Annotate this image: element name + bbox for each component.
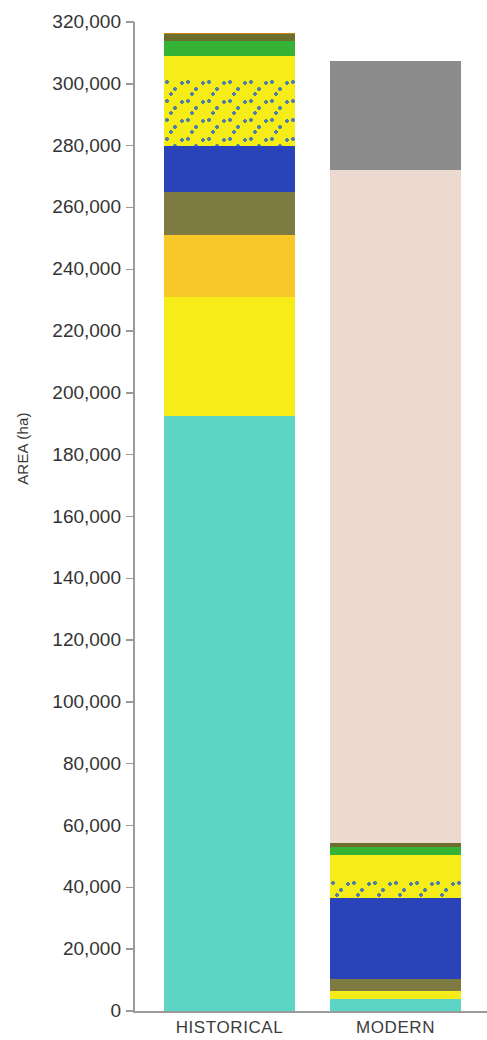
- bar-segment-blue[interactable]: [164, 146, 295, 192]
- y-tick-label: 120,000: [0, 630, 121, 649]
- x-label-historical: HISTORICAL: [164, 1018, 295, 1038]
- bar-segment-green[interactable]: [330, 847, 461, 855]
- bar-segment-stippled-yellow[interactable]: [330, 880, 461, 899]
- y-tick-mark: [126, 269, 134, 270]
- bar-segment-teal-base[interactable]: [330, 999, 461, 1011]
- y-tick-mark: [126, 207, 134, 208]
- y-tick-label: 80,000: [0, 754, 121, 773]
- bar-segment-gold-amber[interactable]: [164, 235, 295, 297]
- y-tick-label: 40,000: [0, 877, 121, 896]
- y-tick-mark: [126, 701, 134, 702]
- bar-segment-bright-yellow[interactable]: [330, 991, 461, 999]
- bar-segment-dark-olive[interactable]: [330, 843, 461, 848]
- bar-segment-blue[interactable]: [330, 898, 461, 978]
- y-tick-label: 320,000: [0, 12, 121, 31]
- bar-segment-dark-olive[interactable]: [164, 34, 295, 40]
- y-tick-mark: [126, 887, 134, 888]
- y-tick-mark: [126, 83, 134, 84]
- bar-segment-orange-tan[interactable]: [164, 33, 295, 35]
- y-tick-label: 100,000: [0, 692, 121, 711]
- y-tick-label: 240,000: [0, 259, 121, 278]
- bar-segment-olive-khaki[interactable]: [164, 192, 295, 235]
- bar-segment-yellow-upper[interactable]: [164, 56, 295, 79]
- y-tick-label: 260,000: [0, 197, 121, 216]
- y-tick-mark: [126, 1010, 134, 1011]
- y-tick-mark: [126, 454, 134, 455]
- y-tick-label: 60,000: [0, 816, 121, 835]
- bar-segment-beige[interactable]: [330, 170, 461, 842]
- y-tick-label: 300,000: [0, 74, 121, 93]
- bar-segment-stippled-yellow[interactable]: [164, 79, 295, 145]
- y-tick-mark: [126, 639, 134, 640]
- stacked-bar-chart: AREA (ha) 320,000300,000280,000260,00024…: [0, 0, 487, 1040]
- y-tick-mark: [126, 516, 134, 517]
- y-tick-mark: [126, 763, 134, 764]
- y-tick-mark: [126, 948, 134, 949]
- bar-modern[interactable]: [330, 61, 461, 1011]
- y-tick-label: 20,000: [0, 939, 121, 958]
- bar-segment-green[interactable]: [164, 41, 295, 56]
- y-tick-label: 160,000: [0, 507, 121, 526]
- y-tick-mark: [126, 392, 134, 393]
- y-tick-mark: [126, 825, 134, 826]
- y-tick-label: 0: [0, 1001, 121, 1020]
- bar-historical[interactable]: [164, 33, 295, 1011]
- bar-segment-yellow-upper[interactable]: [330, 855, 461, 880]
- x-axis-line: [133, 1011, 487, 1013]
- y-tick-mark: [126, 21, 134, 22]
- bar-segment-bright-yellow[interactable]: [164, 297, 295, 416]
- y-tick-label: 280,000: [0, 136, 121, 155]
- y-tick-label: 140,000: [0, 568, 121, 587]
- x-label-modern: MODERN: [330, 1018, 461, 1038]
- y-tick-mark: [126, 145, 134, 146]
- bar-segment-teal-base[interactable]: [164, 416, 295, 1011]
- y-tick-label: 180,000: [0, 445, 121, 464]
- bar-segment-grey[interactable]: [330, 61, 461, 171]
- bar-segment-olive-khaki[interactable]: [330, 979, 461, 991]
- y-tick-label: 220,000: [0, 321, 121, 340]
- y-tick-label: 200,000: [0, 383, 121, 402]
- y-tick-mark: [126, 578, 134, 579]
- y-tick-mark: [126, 330, 134, 331]
